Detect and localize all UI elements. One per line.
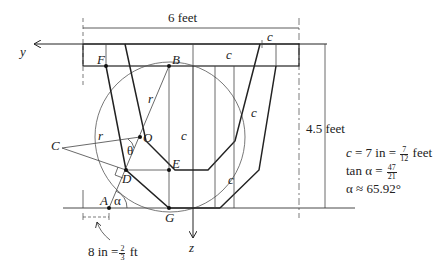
z-axis-label: z [188,240,194,255]
point-d-label: D [121,171,132,186]
width-label: 6 feet [168,10,198,25]
construction-circle [95,62,245,212]
point-g-label: G [165,210,175,225]
point-b-label: B [172,52,180,67]
point-o-label: O [143,130,153,145]
point-f-label: F [96,52,106,67]
trench-outer-left [106,66,220,208]
alpha-label: α [114,193,121,208]
line-c-d [62,148,126,170]
c-dimension-markers: c c c c c [181,29,276,187]
svg-text:c: c [251,105,257,120]
top-slab [83,44,299,66]
radius-label-2: r [98,128,104,143]
point-a-label: A [99,193,108,208]
svg-text:c: c [267,29,273,44]
equation-alpha: α ≈ 65.92° [346,180,401,197]
theta-label: θ [127,143,133,158]
svg-text:c: c [181,128,187,143]
equation-tan: tan α = 4721 [346,162,398,181]
width-dimension: 6 feet [83,10,299,28]
trench-geometry-diagram: 6 feet y 4.5 feet z c c [0,0,437,265]
equation-c: c = 7 in = 712 feet [346,144,432,163]
point-e-label: E [171,156,180,171]
diagram-canvas: 6 feet y 4.5 feet z c c [0,0,437,265]
offset-arrow [97,222,110,240]
y-axis-label: y [18,44,26,59]
svg-text:c: c [228,172,234,187]
svg-text:c: c [226,47,232,62]
offset-label: 8 in =23 ft [88,243,138,262]
height-label: 4.5 feet [306,121,345,136]
point-c-label: C [51,138,60,153]
